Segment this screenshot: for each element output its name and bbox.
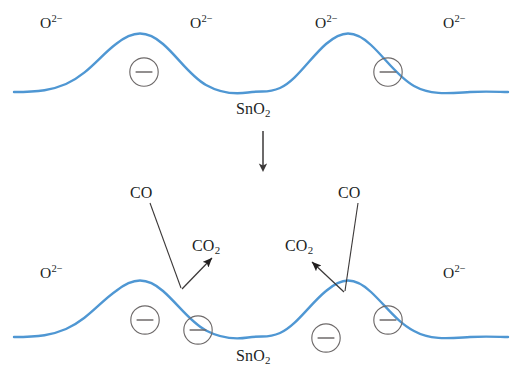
co-label-right: CO <box>338 185 361 201</box>
sno2-label-bottom: SnO2 <box>236 348 271 364</box>
figure-canvas: O2− O2− O2− O2− SnO2 CO CO CO2 CO2 O2− O… <box>0 0 522 377</box>
oxide-label-top-2: O2− <box>190 15 213 31</box>
sno2-label-top: SnO2 <box>236 101 271 117</box>
oxide-label-bottom-2: O2− <box>443 265 466 281</box>
charge-circle-bottom-1 <box>131 306 159 334</box>
bottom-surface-curve <box>14 281 508 339</box>
co-label-left: CO <box>130 185 153 201</box>
co2-label-left: CO2 <box>192 238 220 254</box>
oxide-label-bottom-1: O2− <box>40 265 63 281</box>
oxide-label-top-4: O2− <box>443 15 466 31</box>
charge-circle-bottom-2 <box>184 316 212 344</box>
top-surface-curve <box>14 34 508 94</box>
diagram-svg <box>0 0 522 377</box>
co-adsorption-line-left <box>150 203 181 288</box>
co-adsorption-line-right <box>345 203 358 291</box>
charge-circle-top-left <box>130 58 158 86</box>
charge-circle-bottom-3 <box>312 324 340 352</box>
oxide-label-top-1: O2− <box>40 15 63 31</box>
co2-label-right: CO2 <box>285 238 313 254</box>
co2-desorption-arrow-right <box>312 262 344 292</box>
co2-desorption-arrow-left <box>182 258 212 289</box>
oxide-label-top-3: O2− <box>315 15 338 31</box>
